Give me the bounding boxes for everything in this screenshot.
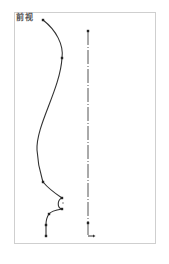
vertex-point[interactable] [61, 57, 63, 59]
arc-center-mark [62, 202, 64, 204]
axis-point[interactable] [87, 30, 89, 32]
profile-curve[interactable] [37, 20, 62, 236]
arrow-icon [93, 235, 96, 238]
vertex-point[interactable] [45, 235, 47, 237]
vertex-point[interactable] [61, 208, 63, 210]
axis-point[interactable] [87, 222, 89, 224]
vertex-point[interactable] [42, 181, 44, 183]
vertex-point[interactable] [48, 213, 50, 215]
vertex-point[interactable] [61, 197, 63, 199]
vertex-point[interactable] [45, 224, 47, 226]
profile-vertices [42, 19, 63, 237]
drawing-canvas [0, 0, 169, 264]
vertex-point[interactable] [42, 19, 44, 21]
